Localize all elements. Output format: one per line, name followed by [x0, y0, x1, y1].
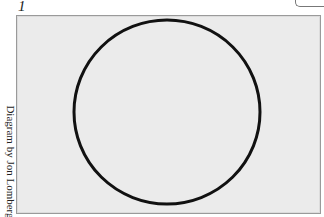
circle — [74, 20, 260, 204]
credit-text: Diagram by Jon Lomberg — [5, 105, 17, 217]
diagram-canvas — [17, 16, 320, 213]
credit-label: Diagram by Jon Lomberg — [1, 112, 21, 212]
figure-number: 1 — [18, 0, 26, 15]
diagram-panel — [16, 15, 321, 214]
page-corner-line — [295, 0, 324, 7]
